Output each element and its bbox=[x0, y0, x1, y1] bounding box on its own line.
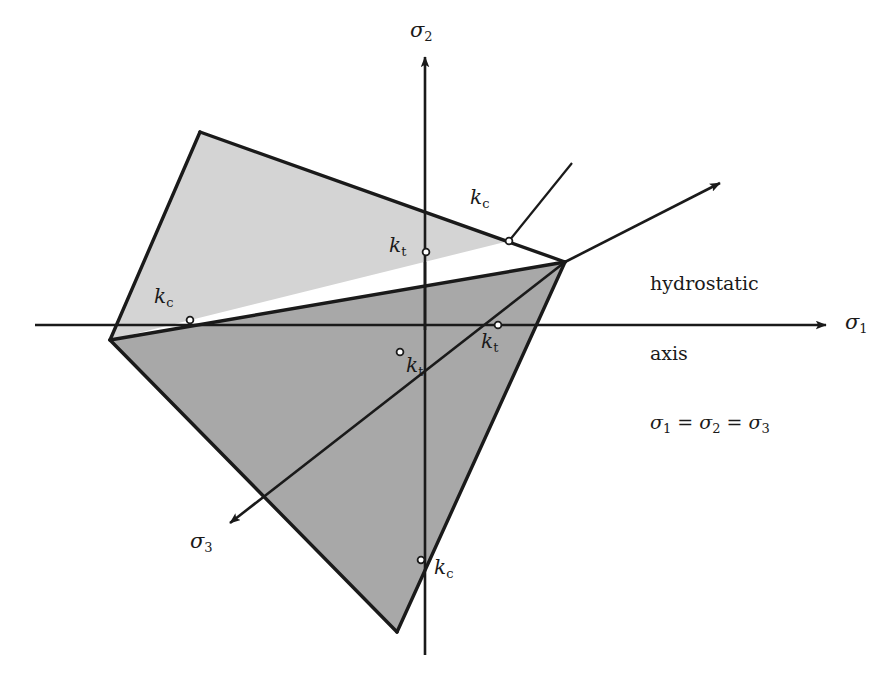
sigma3-axis-label: σ3 bbox=[190, 529, 213, 555]
kt-sigma1-label: kt bbox=[481, 330, 499, 355]
eq-sub-3: 3 bbox=[762, 421, 770, 436]
kt-sigma2-subscript: t bbox=[401, 244, 406, 259]
kt-sigma2-letter: k bbox=[389, 233, 401, 257]
kc-sigma2-top-label: kc bbox=[470, 186, 490, 211]
kc-sigma2-top-point bbox=[506, 238, 513, 245]
kc-sigma2-bottom-point bbox=[418, 557, 425, 564]
kc-sigma1-left-point bbox=[187, 317, 194, 324]
yield-surface-figure: σ1 σ2 σ3 hydrostatic axis σ1 = σ2 = σ3 k… bbox=[0, 0, 895, 684]
hydrostatic-note-equation: σ1 = σ2 = σ3 bbox=[650, 411, 770, 436]
kt-sigma3-letter: k bbox=[406, 353, 418, 377]
kt-sigma2-point bbox=[423, 249, 430, 256]
kt-sigma3-label: kt bbox=[406, 354, 424, 379]
eq-sub-2: 2 bbox=[712, 421, 720, 436]
hydrostatic-note-line1: hydrostatic bbox=[650, 272, 770, 295]
sigma2-subscript: 2 bbox=[424, 29, 432, 44]
sigma3-symbol: σ bbox=[190, 529, 204, 553]
sigma1-symbol: σ bbox=[845, 310, 859, 334]
kc-top-subscript: c bbox=[482, 196, 489, 211]
sigma1-axis-label: σ1 bbox=[845, 310, 868, 336]
sigma2-axis-label: σ2 bbox=[410, 18, 433, 44]
kc-top-letter: k bbox=[470, 185, 482, 209]
leader-lines bbox=[509, 163, 572, 241]
kc-bottom-letter: k bbox=[434, 555, 446, 579]
sigma3-subscript: 3 bbox=[204, 540, 212, 555]
kc-sigma2-bottom-label: kc bbox=[434, 556, 454, 581]
kc-bottom-subscript: c bbox=[446, 566, 453, 581]
eq-sigma-2: σ bbox=[699, 411, 712, 433]
sigma2-symbol: σ bbox=[410, 18, 424, 42]
kt-sigma2-label: kt bbox=[389, 234, 407, 259]
eq-sign-1: = bbox=[671, 411, 699, 433]
kt-sigma1-subscript: t bbox=[493, 340, 498, 355]
eq-sigma-3: σ bbox=[749, 411, 762, 433]
hydrostatic-note-line2: axis bbox=[650, 342, 770, 365]
surface-faces bbox=[110, 132, 565, 632]
kt-sigma3-subscript: t bbox=[418, 364, 423, 379]
kt-sigma1-letter: k bbox=[481, 329, 493, 353]
kc-left-letter: k bbox=[154, 284, 166, 308]
hydrostatic-axis-note: hydrostatic axis σ1 = σ2 = σ3 bbox=[650, 226, 770, 483]
sigma1-subscript: 1 bbox=[859, 321, 867, 336]
kc-top-leader-line bbox=[509, 163, 572, 241]
kt-sigma3-point bbox=[397, 349, 404, 356]
kc-left-subscript: c bbox=[166, 295, 173, 310]
eq-sign-2: = bbox=[721, 411, 749, 433]
kt-sigma1-point bbox=[495, 322, 502, 329]
kc-sigma1-left-label: kc bbox=[154, 285, 174, 310]
eq-sigma-1: σ bbox=[650, 411, 663, 433]
